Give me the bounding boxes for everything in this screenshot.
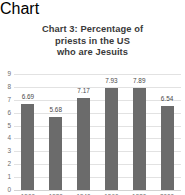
y-axis-tick-7: 7 <box>7 97 11 103</box>
bar-slot-1980: 7.89 <box>125 74 153 190</box>
chart-title: Chart 3: Percentage of priests in the US… <box>0 24 185 59</box>
x-axis-tick-2000: 2000 <box>153 194 181 195</box>
bar-1900: 6.69 <box>21 104 34 190</box>
bar-2000: 6.54 <box>161 106 174 190</box>
y-axis-tick-0: 0 <box>7 187 11 193</box>
bar-value-label-1960: 7.93 <box>105 78 117 84</box>
y-axis: 9876543210 <box>0 74 14 190</box>
x-axis-tick-1900: 1900 <box>14 194 42 195</box>
plot-area: 6.695.687.177.937.896.54 <box>14 74 181 190</box>
gridline-0 <box>14 190 181 191</box>
y-axis-tick-8: 8 <box>7 84 11 90</box>
bar-1940: 7.17 <box>77 98 90 190</box>
y-axis-tick-6: 6 <box>7 109 11 115</box>
bar-value-label-1940: 7.17 <box>77 88 89 94</box>
bar-slot-1920: 5.68 <box>42 74 70 190</box>
plot-region: 9876543210 6.695.687.177.937.896.54 1900… <box>0 74 185 195</box>
chart-title-line-3: who are Jesuits <box>0 47 185 59</box>
y-axis-tick-5: 5 <box>7 122 11 128</box>
x-axis-tick-1920: 1920 <box>42 194 70 195</box>
x-axis-tick-1940: 1940 <box>70 194 98 195</box>
x-axis-tick-1960: 1960 <box>97 194 125 195</box>
x-axis-tick-1980: 1980 <box>125 194 153 195</box>
bar-1920: 5.68 <box>49 117 62 190</box>
bar-slot-2000: 6.54 <box>153 74 181 190</box>
y-axis-tick-3: 3 <box>7 148 11 154</box>
bar-value-label-1900: 6.69 <box>22 94 34 100</box>
bar-value-label-2000: 6.54 <box>161 96 173 102</box>
chart-card: Chart 3: Percentage of priests in the US… <box>0 18 185 195</box>
bar-slot-1940: 7.17 <box>70 74 98 190</box>
bar-1960: 7.93 <box>105 88 118 190</box>
y-axis-tick-1: 1 <box>7 174 11 180</box>
bar-value-label-1980: 7.89 <box>133 78 145 84</box>
bar-value-label-1920: 5.68 <box>50 107 62 113</box>
y-axis-tick-9: 9 <box>7 71 11 77</box>
bar-series: 6.695.687.177.937.896.54 <box>14 74 181 190</box>
bar-1980: 7.89 <box>133 88 146 190</box>
y-axis-tick-2: 2 <box>7 161 11 167</box>
chart-title-line-1: Chart 3: Percentage of <box>0 24 185 36</box>
bar-slot-1900: 6.69 <box>14 74 42 190</box>
chart-title-line-2: priests in the US <box>0 36 185 48</box>
x-axis: 190019201940196019802000 <box>14 194 181 195</box>
y-axis-tick-4: 4 <box>7 135 11 141</box>
bar-slot-1960: 7.93 <box>97 74 125 190</box>
